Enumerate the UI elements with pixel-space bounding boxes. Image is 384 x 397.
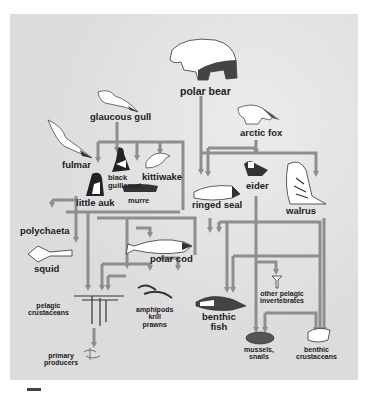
label-benthic-fish: benthic fish: [202, 312, 236, 332]
squid-icon: [28, 246, 72, 262]
glaucous-gull-icon: [98, 91, 138, 112]
black-guillemot-icon: [112, 148, 130, 172]
label-squid: squid: [34, 264, 59, 274]
label-eider: eider: [246, 181, 269, 191]
mussels-icon: [246, 332, 274, 344]
walrus-icon: [286, 162, 326, 204]
ringed-seal-icon: [194, 186, 240, 200]
label-mussels-snails: mussels, snails: [244, 346, 274, 361]
legend-swatch: [27, 388, 41, 391]
pelagic-crustaceans-icon: [74, 296, 124, 326]
label-polar-cod: polar cod: [150, 254, 193, 264]
label-polar-bear: polar bear: [180, 86, 231, 97]
kittiwake-icon: [146, 153, 170, 168]
polar-bear-icon: [170, 39, 237, 80]
label-ringed-seal: ringed seal: [192, 200, 242, 210]
label-pelagic-crustaceans: pelagic crustaceans: [28, 302, 69, 317]
amphipods-icon: [138, 285, 172, 298]
fulmar-icon: [48, 120, 92, 158]
label-amphipods-krill-prawns: amphipods krill prawns: [136, 306, 173, 328]
label-walrus: walrus: [286, 206, 316, 216]
benthic-fish-icon: [196, 296, 246, 310]
arctic-fox-icon: [238, 105, 280, 124]
benthic-crustaceans-icon: [308, 328, 330, 342]
label-other-pelagic-invertebrates: other pelagic invertebrates: [260, 290, 304, 305]
label-black-guillemot: black guillemot: [108, 174, 141, 190]
polar-cod-icon: [126, 240, 192, 254]
label-polychaeta: polychaeta: [20, 226, 70, 236]
eider-icon: [244, 161, 268, 176]
little-auk-icon: [86, 173, 104, 196]
label-primary-producers: primary producers: [44, 352, 78, 367]
label-arctic-fox: arctic fox: [240, 128, 282, 138]
label-fulmar: fulmar: [62, 160, 91, 170]
primary-producers-icon: [84, 348, 100, 360]
label-kittiwake: kittiwake: [142, 172, 182, 182]
label-glaucous-gull: glaucous gull: [90, 112, 151, 122]
label-little-auk: little auk: [76, 198, 115, 208]
other-pelagic-invertebrates-icon: [272, 276, 282, 288]
label-murre: murre: [128, 197, 149, 205]
label-benthic-crustaceans: benthic crustaceans: [296, 346, 337, 361]
